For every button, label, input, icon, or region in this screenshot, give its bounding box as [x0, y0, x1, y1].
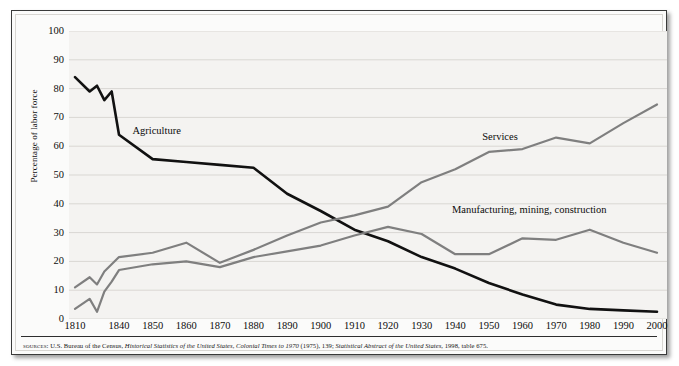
y-tick-label-40: 40 — [30, 199, 64, 210]
x-tick-label-1980: 1980 — [579, 321, 600, 332]
series-lines — [75, 77, 657, 312]
x-tick-label-1960: 1960 — [512, 321, 533, 332]
plot-area: AgricultureServicesManufacturing, mining… — [69, 31, 667, 319]
y-tick-label-50: 50 — [30, 170, 64, 181]
x-tick-label-1880: 1880 — [243, 321, 264, 332]
x-tick-label-1900: 1900 — [310, 321, 331, 332]
y-axis-ticks: 0102030405060708090100 — [12, 31, 69, 319]
y-tick-label-10: 10 — [30, 285, 64, 296]
figure-frame: Percentage of labor force 01020304050607… — [11, 10, 667, 355]
y-tick-label-60: 60 — [30, 141, 64, 152]
x-tick-label-1890: 1890 — [277, 321, 298, 332]
x-axis-ticks: 1810184018501860187018801890190019101920… — [69, 321, 667, 337]
x-tick-label-1810: 1810 — [65, 321, 86, 332]
x-tick-label-1970: 1970 — [546, 321, 567, 332]
source-divider — [21, 336, 657, 337]
source-title-2: Statistical Abstract of the United State… — [335, 342, 441, 349]
series-label-services: Services — [482, 132, 518, 143]
source-text-part-1: U.S. Bureau of the Census, — [49, 342, 125, 349]
x-tick-label-1950: 1950 — [478, 321, 499, 332]
y-tick-label-80: 80 — [30, 84, 64, 95]
source-title-1: Historical Statistics of the United Stat… — [125, 342, 299, 349]
source-text-part-2: (1975), 139; — [299, 342, 336, 349]
series-line-manufacturing — [75, 227, 657, 312]
source-note: sources: U.S. Bureau of the Census, Hist… — [23, 342, 655, 350]
x-tick-label-1990: 1990 — [613, 321, 634, 332]
figure-container: Percentage of labor force 01020304050607… — [0, 0, 679, 366]
y-tick-label-0: 0 — [30, 314, 64, 325]
source-text-part-3: , 1998, table 675. — [441, 342, 488, 349]
x-tick-label-1860: 1860 — [176, 321, 197, 332]
series-label-agriculture: Agriculture — [132, 126, 180, 137]
y-tick-label-30: 30 — [30, 228, 64, 239]
x-tick-label-1920: 1920 — [378, 321, 399, 332]
y-tick-label-90: 90 — [30, 55, 64, 66]
y-tick-label-100: 100 — [30, 26, 64, 37]
series-line-agriculture — [75, 77, 657, 312]
x-tick-label-1840: 1840 — [109, 321, 130, 332]
x-tick-label-1910: 1910 — [344, 321, 365, 332]
x-tick-label-1850: 1850 — [142, 321, 163, 332]
x-tick-label-1870: 1870 — [209, 321, 230, 332]
x-tick-label-2000: 2000 — [647, 321, 668, 332]
x-tick-label-1930: 1930 — [411, 321, 432, 332]
source-label: sources: — [23, 342, 49, 349]
series-label-manufacturing: Manufacturing, mining, construction — [452, 205, 607, 216]
gridlines — [69, 31, 667, 319]
x-tick-label-1940: 1940 — [445, 321, 466, 332]
y-tick-label-70: 70 — [30, 112, 64, 123]
y-tick-label-20: 20 — [30, 256, 64, 267]
chart-svg — [69, 31, 667, 319]
